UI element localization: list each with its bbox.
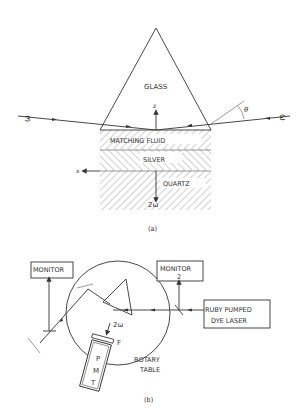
glass-prism — [100, 28, 211, 130]
figure-canvas: GLASS z x θ ω ω MATCHING FLUID SILVER QU… — [0, 0, 306, 414]
pmt-letter-p: P — [96, 355, 100, 363]
pmt-detector — [80, 340, 112, 392]
panel-b: P M T F RUBY PUMPED DYE LASER MONITOR 2 … — [28, 261, 270, 404]
caption-b: (b) — [144, 396, 153, 404]
omega-right-label: ω — [278, 114, 287, 121]
monitor-2-number: 2 — [177, 273, 181, 281]
panel-a: GLASS z x θ ω ω MATCHING FLUID SILVER QU… — [18, 28, 290, 233]
monitor-2-label: MONITOR — [160, 265, 192, 273]
filter-label: F — [117, 339, 121, 347]
laser-label-line1: RUBY PUMPED — [205, 306, 252, 314]
pmt-letter-m: M — [93, 367, 99, 375]
glass-label: GLASS — [144, 83, 168, 91]
theta-label: θ — [244, 106, 249, 114]
mirror-top — [77, 284, 93, 288]
matching-fluid-label: MATCHING FLUID — [110, 137, 165, 145]
caption-a: (a) — [148, 225, 157, 233]
monitor-1-label: MONITOR — [33, 266, 65, 274]
rotary-table-label-2: TABLE — [139, 366, 160, 374]
two-omega-label-b: 2ω — [113, 321, 123, 329]
silver-label: SILVER — [143, 156, 166, 164]
rotary-table — [66, 261, 170, 365]
laser-label-line2: DYE LASER — [211, 317, 247, 325]
mirror-bottom — [28, 338, 40, 353]
omega-left-label: ω — [23, 115, 32, 122]
pmt-letter-t: T — [90, 379, 96, 387]
x-axis-label: x — [76, 167, 80, 174]
rotary-table-label-1: ROTARY — [134, 356, 160, 364]
two-omega-label-a: 2ω — [148, 201, 158, 209]
quartz-label: QUARTZ — [163, 180, 190, 188]
z-axis-label: z — [153, 102, 156, 109]
